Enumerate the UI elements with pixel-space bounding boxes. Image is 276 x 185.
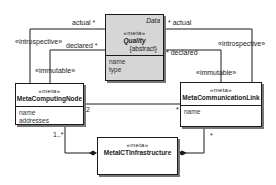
class-meta-ict-infrastructure[interactable]: «meta» MetaICTInfrastructure: [97, 137, 178, 175]
infra-node-multiplicity: 1..*: [53, 131, 64, 139]
class-name: MetaICTInfrastructure: [98, 149, 177, 157]
left-immutable-stereotype: «immutable»: [35, 67, 75, 75]
node-link-from-multiplicity: 2: [86, 106, 90, 114]
attribute-name: name: [181, 108, 261, 116]
class-meta-computing-node[interactable]: «meta» MetaComputingNode name addresses: [15, 83, 84, 125]
left-introspective-stereotype: «introspective»: [15, 38, 62, 46]
right-immutable-stereotype: «immutable»: [196, 69, 236, 77]
class-name: Quality: [106, 37, 163, 45]
left-declared-label: declared *: [66, 42, 98, 50]
composition-infra-node: [65, 125, 90, 153]
right-introspective-stereotype: «introspective»: [218, 40, 265, 48]
attribute-addresses: addresses: [16, 117, 83, 125]
attribute-name: name: [106, 58, 163, 66]
class-quality[interactable]: Data «meta» Quality {abstract} name type: [105, 14, 164, 81]
composition-diamond-left-icon: [89, 151, 97, 156]
attribute-compartment: name type: [106, 55, 163, 74]
composition-infra-link: [186, 127, 204, 153]
right-actual-label: * actual: [168, 19, 191, 27]
node-link-to-multiplicity: *: [176, 106, 179, 114]
right-declared-label: * declared: [166, 49, 198, 57]
attribute-compartment: name addresses: [16, 106, 83, 125]
stereotype: «meta»: [181, 86, 261, 94]
composition-diamond-right-icon: [178, 151, 187, 156]
attribute-compartment: name: [181, 105, 261, 116]
class-name: MetaComputingNode: [16, 95, 83, 103]
attribute-name: name: [16, 109, 83, 117]
infra-link-multiplicity: *: [210, 132, 213, 140]
package-label: Data: [146, 17, 160, 25]
class-name: MetaCommunicationLink: [181, 94, 261, 102]
stereotype: «meta»: [98, 141, 177, 149]
stereotype: «meta»: [106, 29, 163, 37]
abstract-modifier: {abstract}: [106, 45, 163, 53]
stereotype: «meta»: [16, 87, 83, 95]
class-meta-communication-link[interactable]: «meta» MetaCommunicationLink name: [180, 82, 262, 127]
left-actual-label: actual *: [72, 19, 95, 27]
attribute-type: type: [106, 66, 163, 74]
